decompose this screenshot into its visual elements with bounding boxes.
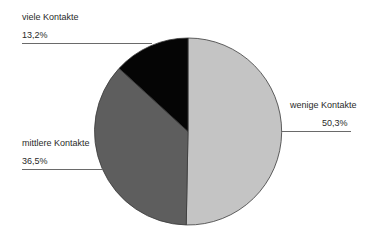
- value-viele-kontakte: 13,2%: [22, 30, 48, 40]
- pie-slice-wenige-kontakte: [186, 38, 281, 225]
- pie-slices: [95, 38, 282, 225]
- pie-chart: viele Kontakte 13,2% mittlere Kontakte 3…: [0, 0, 369, 242]
- value-mittlere-kontakte: 36,5%: [22, 156, 48, 166]
- leader-line-wenige: [281, 131, 351, 132]
- pie-svg: [0, 0, 369, 242]
- value-wenige-kontakte: 50,3%: [322, 118, 348, 128]
- label-mittlere-kontakte: mittlere Kontakte: [22, 138, 90, 148]
- leader-line-mittlere: [22, 169, 102, 170]
- label-wenige-kontakte: wenige Kontakte: [290, 100, 357, 110]
- leader-line-viele: [22, 43, 152, 44]
- label-viele-kontakte: viele Kontakte: [22, 12, 79, 22]
